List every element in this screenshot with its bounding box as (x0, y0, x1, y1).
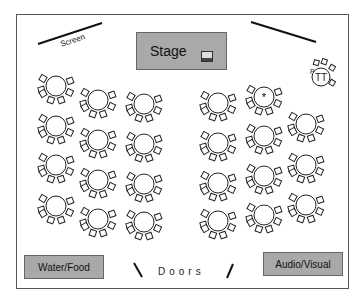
chair (66, 156, 74, 164)
chair (209, 153, 217, 161)
round-table[interactable] (200, 131, 236, 161)
round-table[interactable] (246, 203, 282, 233)
chair (201, 209, 209, 217)
chair (255, 186, 263, 194)
chair (99, 190, 107, 198)
chair (154, 146, 162, 154)
chair (209, 193, 217, 201)
chair (66, 117, 74, 125)
chair (307, 175, 315, 183)
chair (255, 146, 263, 154)
chair (135, 232, 143, 240)
round-table[interactable] (126, 172, 162, 202)
chair (135, 194, 143, 202)
water-food-label: Water/Food (38, 262, 90, 273)
chair (201, 171, 209, 179)
round-table[interactable] (126, 92, 162, 122)
chair (255, 107, 263, 115)
round-table[interactable] (246, 124, 282, 154)
round-table[interactable] (80, 128, 116, 158)
chair (265, 107, 273, 115)
chair (99, 229, 107, 237)
chair (99, 150, 107, 158)
chair (228, 174, 236, 182)
chair (219, 113, 227, 121)
chair (316, 156, 324, 164)
round-table[interactable] (38, 114, 74, 144)
chair (154, 175, 162, 183)
chair (247, 164, 255, 172)
chair (127, 172, 135, 180)
chair (108, 210, 116, 218)
round-table[interactable] (38, 74, 74, 104)
chair (57, 96, 65, 104)
round-table[interactable] (38, 194, 74, 224)
chair (108, 131, 116, 139)
chair (89, 229, 97, 237)
round-table[interactable] (126, 210, 162, 240)
chair (81, 88, 89, 96)
chair (274, 217, 282, 225)
round-table[interactable] (80, 88, 116, 118)
audio-visual-station: Audio/Visual (263, 252, 343, 276)
stage-label: Stage (150, 43, 187, 59)
round-table[interactable] (288, 153, 324, 183)
chair (219, 193, 227, 201)
head-table-star-icon: * (262, 91, 267, 103)
chair (274, 206, 282, 214)
round-table[interactable] (200, 91, 236, 121)
round-table[interactable] (246, 164, 282, 194)
chair (274, 99, 282, 107)
stage: Stage (136, 32, 227, 70)
chair (265, 186, 273, 194)
doors-label: Doors (158, 266, 205, 277)
door-left-line (134, 263, 142, 277)
chair (247, 124, 255, 132)
chair (66, 88, 74, 96)
chair (47, 136, 55, 144)
chair (108, 221, 116, 229)
chair (289, 153, 297, 161)
chair (89, 110, 97, 118)
svg-text:P: P (310, 68, 315, 75)
round-table[interactable] (288, 112, 324, 142)
chair (201, 131, 209, 139)
chair (274, 88, 282, 96)
chair (81, 207, 89, 215)
tt-table[interactable]: TT P (310, 58, 336, 86)
round-table[interactable]: * (246, 85, 282, 115)
chair (39, 153, 47, 161)
chair (289, 112, 297, 120)
svg-text:TT: TT (315, 72, 327, 83)
chair (307, 134, 315, 142)
chair (274, 178, 282, 186)
chair (289, 193, 297, 201)
chair (307, 215, 315, 223)
podium-icon (201, 51, 213, 62)
chair (39, 74, 47, 82)
chair (127, 132, 135, 140)
chair (297, 175, 305, 183)
chair (108, 91, 116, 99)
chair (99, 110, 107, 118)
round-table[interactable] (200, 171, 236, 201)
chair (57, 175, 65, 183)
round-table[interactable] (38, 153, 74, 183)
chair (57, 136, 65, 144)
chair (154, 224, 162, 232)
chair (219, 153, 227, 161)
round-table[interactable] (80, 207, 116, 237)
chair (145, 114, 153, 122)
chair (89, 150, 97, 158)
chair (154, 95, 162, 103)
chair (297, 134, 305, 142)
round-table[interactable] (200, 209, 236, 239)
chair (66, 167, 74, 175)
round-table[interactable] (126, 132, 162, 162)
chair (66, 128, 74, 136)
chair (39, 114, 47, 122)
round-table[interactable] (80, 168, 116, 198)
round-table[interactable] (288, 193, 324, 223)
chair (228, 185, 236, 193)
chair (108, 182, 116, 190)
